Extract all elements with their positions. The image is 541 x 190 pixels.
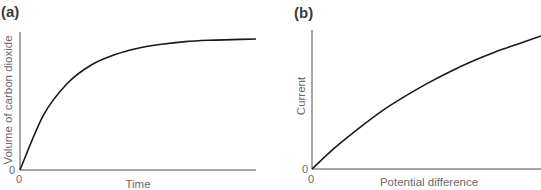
y-axis-label-a: Volume of carbon dioxide [2, 35, 14, 164]
charts-canvas: 0 0 Time Volume of carbon dioxide 0 0 Po… [0, 0, 541, 190]
y-axis-label-b: Current [295, 76, 307, 115]
x-tick-zero-b: 0 [308, 173, 314, 185]
x-tick-zero-a: 0 [16, 173, 22, 185]
x-axis-label-a: Time [125, 178, 150, 190]
curve-b [312, 36, 541, 169]
chart-b: 0 0 Potential difference Current [295, 30, 541, 188]
y-tick-zero-a: 0 [9, 164, 15, 176]
chart-a: 0 0 Time Volume of carbon dioxide [2, 32, 256, 190]
x-axis-label-b: Potential difference [380, 176, 478, 188]
curve-a [20, 39, 256, 170]
